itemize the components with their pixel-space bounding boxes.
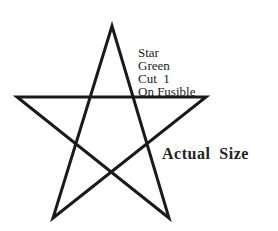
actual-size-caption: Actual Size bbox=[162, 145, 249, 163]
star-shape bbox=[0, 0, 278, 231]
label-line-fusible: On Fusible bbox=[138, 85, 195, 98]
pattern-label: Star Green Cut 1 On Fusible bbox=[138, 46, 195, 98]
